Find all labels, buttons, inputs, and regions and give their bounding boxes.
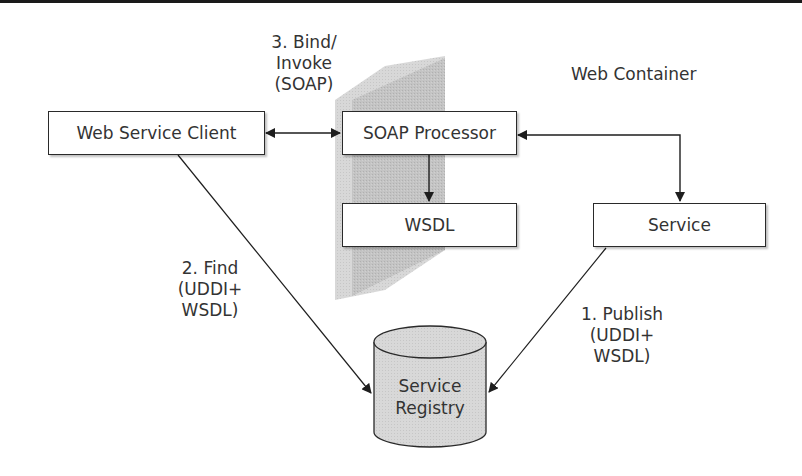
bind-invoke-label: 3. Bind/ Invoke (SOAP): [262, 32, 346, 95]
wsdl-label: WSDL: [404, 215, 454, 235]
service-label: Service: [648, 215, 711, 235]
web-service-client-label: Web Service Client: [77, 123, 237, 143]
publish-label: 1. Publish (UDDI+ WSDL): [574, 304, 670, 367]
wsdl-box[interactable]: WSDL: [342, 203, 517, 247]
service-box[interactable]: Service: [593, 203, 766, 247]
service-registry-label: Service Registry: [374, 375, 486, 419]
soap-processor-label: SOAP Processor: [363, 123, 496, 143]
web-service-client-box[interactable]: Web Service Client: [48, 111, 265, 155]
soap-processor-box[interactable]: SOAP Processor: [342, 111, 517, 155]
find-label: 2. Find (UDDI+ WSDL): [170, 258, 250, 321]
processor-service-arrow: [518, 135, 680, 201]
web-container-label: Web Container: [571, 64, 697, 85]
